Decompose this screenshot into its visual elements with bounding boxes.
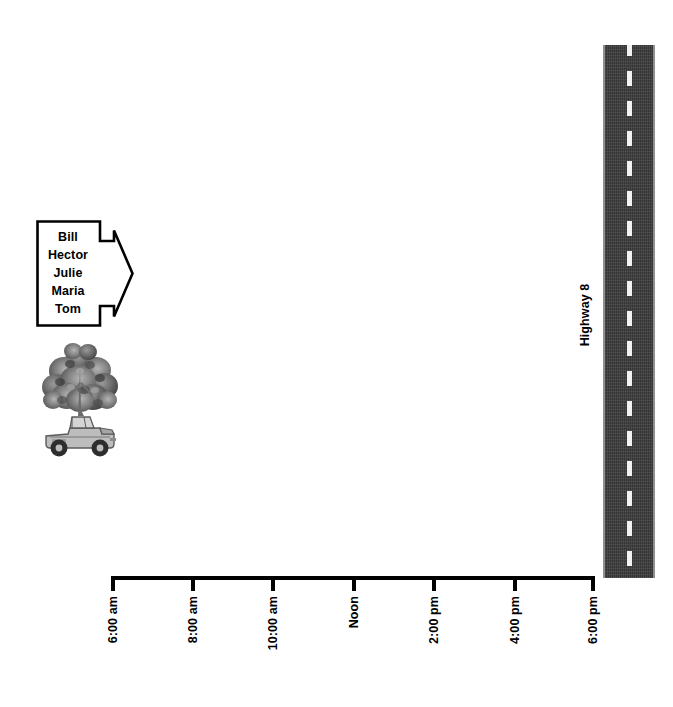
axis-tick-label: 2:00 pm [425,596,443,674]
axis-tick-label: 10:00 am [264,596,282,674]
axis-tick [432,576,436,591]
axis-tick-label: 4:00 pm [506,596,524,674]
axis-tick [191,576,195,591]
highway-lane-marking [627,45,632,578]
axis-tick-label: 6:00 pm [584,596,602,674]
jeep-icon [46,417,116,457]
axis-tick [591,576,595,591]
diagram-canvas: Bill Hector Julie Maria Tom [0,0,673,707]
axis-tick [352,576,356,591]
axis-tick-label: 8:00 am [184,596,202,674]
axis-tick [513,576,517,591]
highway-label-text: Highway 8 [578,284,592,347]
passenger-list-callout: Bill Hector Julie Maria Tom [36,220,134,327]
axis-tick-label-text: 4:00 pm [508,596,522,644]
timeline-axis [106,576,600,592]
axis-tick [271,576,275,591]
tree-icon [40,338,120,466]
highway-road [603,45,655,578]
axis-tick-label: 6:00 am [104,596,122,674]
callout-arrow-shape [36,220,134,327]
axis-tick-label-text: Noon [347,596,361,628]
axis-tick [111,576,115,591]
axis-tick-label-text: 6:00 am [106,596,120,643]
axis-tick-label-text: 6:00 pm [586,596,600,644]
tree-on-jeep-illustration [40,338,120,466]
timeline-tick-labels: 6:00 am 8:00 am 10:00 am Noon 2:00 pm 4:… [106,596,600,676]
axis-tick-label: Noon [345,596,363,674]
axis-tick-label-text: 8:00 am [186,596,200,643]
highway-label: Highway 8 [574,270,596,360]
axis-tick-label-text: 10:00 am [266,596,280,650]
axis-tick-label-text: 2:00 pm [427,596,441,644]
